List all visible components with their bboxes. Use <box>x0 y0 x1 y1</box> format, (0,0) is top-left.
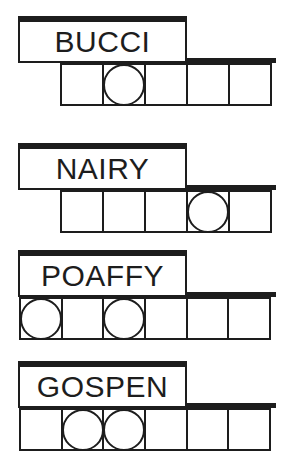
scrambled-word: POAFFY <box>41 261 164 291</box>
jumble-puzzle: BUCCI NAIRY POAFFY GOSPEN <box>0 0 297 462</box>
scrambled-word: BUCCI <box>55 27 151 57</box>
circle-marker <box>103 64 145 106</box>
jumble-group-1: BUCCI <box>0 16 297 111</box>
circle-marker <box>103 409 145 451</box>
answer-row <box>19 297 271 340</box>
answer-cell[interactable] <box>186 192 228 231</box>
circle-marker <box>187 191 229 233</box>
answer-cell[interactable] <box>21 299 61 338</box>
jumble-group-4: GOSPEN <box>0 361 297 456</box>
scrambled-word-box: NAIRY <box>18 147 187 190</box>
answer-cell[interactable] <box>102 192 144 231</box>
answer-cell[interactable] <box>144 299 186 338</box>
scrambled-word-box: BUCCI <box>18 20 187 63</box>
answer-cell[interactable] <box>61 299 103 338</box>
scrambled-word-box: GOSPEN <box>18 365 187 408</box>
circle-marker <box>62 409 104 451</box>
scrambled-word-box: POAFFY <box>18 254 187 297</box>
answer-cell[interactable] <box>186 299 228 338</box>
answer-row <box>60 190 272 233</box>
answer-row <box>60 63 272 106</box>
answer-cell[interactable] <box>144 410 186 449</box>
jumble-group-3: POAFFY <box>0 250 297 345</box>
answer-cell[interactable] <box>186 65 228 104</box>
answer-cell[interactable] <box>21 410 61 449</box>
answer-cell[interactable] <box>227 410 269 449</box>
circle-marker <box>103 298 145 340</box>
answer-cell[interactable] <box>228 192 270 231</box>
answer-cell[interactable] <box>102 410 144 449</box>
scrambled-word: GOSPEN <box>37 372 168 402</box>
answer-cell[interactable] <box>144 192 186 231</box>
answer-cell[interactable] <box>102 65 144 104</box>
answer-cell[interactable] <box>61 410 103 449</box>
answer-cell[interactable] <box>228 65 270 104</box>
answer-cell[interactable] <box>144 65 186 104</box>
scrambled-word: NAIRY <box>56 154 150 184</box>
answer-row <box>19 408 271 451</box>
answer-cell[interactable] <box>186 410 228 449</box>
jumble-group-2: NAIRY <box>0 143 297 238</box>
circle-marker <box>20 298 62 340</box>
answer-cell[interactable] <box>62 65 102 104</box>
answer-cell[interactable] <box>227 299 269 338</box>
answer-cell[interactable] <box>102 299 144 338</box>
answer-cell[interactable] <box>62 192 102 231</box>
